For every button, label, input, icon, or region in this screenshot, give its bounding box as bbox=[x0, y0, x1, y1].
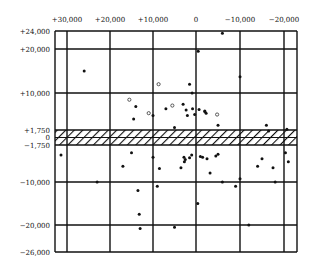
data-point bbox=[173, 226, 176, 229]
data-point-open bbox=[147, 112, 150, 115]
data-point bbox=[209, 172, 212, 175]
data-point bbox=[152, 114, 155, 117]
data-point bbox=[136, 189, 139, 192]
x-tick-label: +10,000 bbox=[138, 16, 168, 24]
data-point bbox=[261, 157, 264, 160]
x-tick-label: −10,000 bbox=[225, 16, 255, 24]
data-point bbox=[132, 118, 135, 121]
data-point bbox=[191, 92, 194, 95]
data-point bbox=[267, 130, 270, 133]
hatched-band bbox=[55, 130, 297, 145]
data-point bbox=[221, 181, 224, 184]
y-tick-label: −20,000 bbox=[20, 222, 50, 230]
y-tick-label: +10,000 bbox=[20, 90, 50, 98]
y-tick-label: −10,000 bbox=[20, 179, 50, 187]
data-point bbox=[179, 166, 182, 169]
data-point bbox=[138, 213, 141, 216]
y-axis-labels: +24,000+20,000+10,000+1,7500−1,750−10,00… bbox=[20, 28, 50, 257]
data-point bbox=[247, 224, 250, 227]
data-point bbox=[239, 177, 242, 180]
data-point bbox=[121, 165, 124, 168]
data-point bbox=[239, 75, 242, 78]
y-tick-label: −26,000 bbox=[20, 249, 50, 257]
data-point bbox=[217, 124, 220, 127]
data-point bbox=[191, 107, 194, 110]
x-tick-label: −20,000 bbox=[269, 16, 299, 24]
data-point bbox=[205, 112, 208, 115]
y-tick-label: +24,000 bbox=[20, 28, 50, 36]
data-point bbox=[198, 108, 201, 111]
data-point bbox=[287, 160, 290, 163]
data-point bbox=[274, 181, 277, 184]
y-tick-label: +20,000 bbox=[20, 46, 50, 54]
data-point bbox=[96, 181, 99, 184]
data-point bbox=[158, 167, 161, 170]
data-point bbox=[285, 128, 288, 131]
data-point bbox=[196, 202, 199, 205]
data-point bbox=[256, 165, 259, 168]
data-point bbox=[206, 157, 209, 160]
data-point bbox=[60, 154, 63, 157]
data-point bbox=[188, 83, 191, 86]
scatter-chart: +30,000+20,000+10,0000−10,000−20,000 +24… bbox=[0, 0, 312, 267]
data-point bbox=[221, 32, 224, 35]
data-point bbox=[272, 166, 275, 169]
data-point-open bbox=[157, 83, 160, 86]
data-point bbox=[265, 124, 268, 127]
data-point bbox=[164, 107, 167, 110]
data-point bbox=[83, 70, 86, 73]
data-point bbox=[199, 155, 202, 158]
x-axis-labels: +30,000+20,000+10,0000−10,000−20,000 bbox=[52, 16, 299, 24]
y-tick-label: −1,750 bbox=[24, 142, 50, 150]
data-point bbox=[185, 109, 188, 112]
data-point bbox=[130, 151, 133, 154]
data-point-open bbox=[128, 98, 131, 101]
data-point bbox=[173, 126, 176, 129]
x-tick-label: +20,000 bbox=[95, 16, 125, 24]
data-point-open bbox=[171, 104, 174, 107]
data-point bbox=[182, 103, 185, 106]
data-point bbox=[186, 114, 189, 117]
x-tick-label: +30,000 bbox=[52, 16, 82, 24]
data-point bbox=[134, 105, 137, 108]
data-point-open bbox=[216, 113, 219, 116]
data-point bbox=[193, 113, 196, 116]
x-tick-label: 0 bbox=[194, 16, 198, 24]
data-point bbox=[190, 154, 193, 157]
data-point bbox=[183, 160, 186, 163]
data-point bbox=[139, 227, 142, 230]
data-point bbox=[234, 185, 237, 188]
data-point bbox=[152, 156, 155, 159]
data-point bbox=[284, 151, 287, 154]
data-point bbox=[214, 154, 217, 157]
data-point bbox=[156, 185, 159, 188]
data-point bbox=[188, 156, 191, 159]
data-point bbox=[197, 50, 200, 53]
